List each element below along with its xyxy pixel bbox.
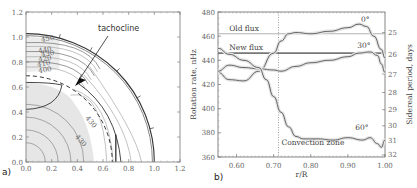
panel-a-contour-plot: 0.00.20.40.60.81.01.2 0.00.20.40.60.81.0… [2,9,186,178]
x-tick-label: 1.0 [149,165,160,173]
y-tick-label: 1.2 [12,9,23,17]
y-tick-label: 380 [202,129,215,137]
y-tick-label: 360 [202,154,215,162]
series-line-2 [218,48,385,147]
series-label: 30° [357,41,371,50]
y-tick-label: 400 [202,105,215,113]
x-tick-label: 0.8 [123,165,134,173]
y-axis-label: Rotation rate, nHz [189,49,198,119]
series-label: 0° [361,15,370,24]
series-error-band [218,48,385,147]
right-tick-label: 27 [388,71,397,79]
series-label: 60° [355,123,369,132]
figure: 0.00.20.40.60.81.01.2 0.00.20.40.60.81.0… [0,0,417,188]
latitude-tick [59,34,60,38]
tachocline-label: tachocline [98,24,139,33]
y-tick-label: 0.4 [12,109,24,117]
old-flux-label: Old flux [229,24,260,33]
series-line-1 [218,52,385,73]
right-tick-label: 28 [388,89,397,97]
x-tick-label: 0.2 [46,165,57,173]
latitude-tick [117,68,120,71]
right-y-axis-label: Sidereal period, days [405,44,414,125]
panel-b-rotation-profile: 0.600.700.800.901.00 3603804004204404604… [189,9,414,183]
x-tick-label: 0.6 [97,165,109,173]
y-tick-label: 1.0 [12,34,23,42]
right-tick-label: 25 [388,29,397,37]
x-tick-label: 1.2 [174,165,185,173]
x-tick-label: 1.00 [377,162,393,170]
x-tick-label: 0.80 [303,162,319,170]
y-tick-label: 420 [202,81,215,89]
y-tick-label: 480 [202,9,215,17]
right-tick-label: 31 [388,137,397,145]
y-tick-label: 0.6 [12,84,24,92]
x-axis-label: r/R [296,170,308,179]
series-labels: 0°30°60° [355,15,370,133]
right-tick-label: 30 [388,122,397,130]
y-tick-label: 0.8 [12,59,23,67]
panel-a-label: a) [2,167,11,177]
x-tick-label: 0.90 [340,162,356,170]
y-tick-label: 440 [202,57,215,65]
y-tick-label: 0.2 [12,134,23,142]
latitude-tick [150,128,154,129]
x-tick-label: 0.4 [72,165,84,173]
panel-b-label: b) [214,172,223,182]
y-tick-label: 460 [202,33,215,41]
right-tick-label: 29 [388,106,397,114]
latitude-tick [90,47,92,50]
convection-zone-label: Convection zone [281,138,344,147]
right-tick-label: 32 [388,151,397,159]
right-tick-label: 26 [388,51,397,59]
new-flux-label: New flux [229,43,264,52]
x-tick-label: 0.70 [266,162,282,170]
contour-label: 400 [38,65,53,75]
latitude-tick [137,96,140,98]
tachocline-arrow-line [79,36,108,80]
y-tick-label: 0.0 [12,159,23,167]
series-error-band [218,52,385,73]
x-tick-label: 0.60 [229,162,245,170]
